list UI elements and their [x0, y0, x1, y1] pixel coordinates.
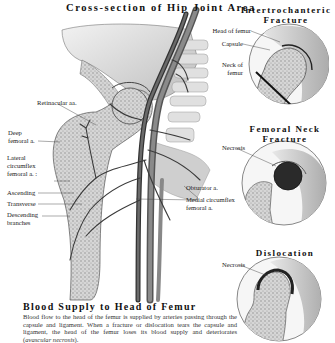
label-deep-femoral-artery: Deep femoral a. [8, 129, 35, 145]
panel-femoral-neck-fracture [236, 141, 329, 240]
label-head-of-femur: Head of femur [206, 27, 251, 35]
label-medial-circumflex-femoral-artery: Medial circumflex femoral a. [186, 196, 235, 212]
panel-title-femoral-neck-fracture: Femoral Neck Fracture [240, 124, 330, 144]
label-ascending: Ascending [7, 189, 35, 197]
panel-title-dislocation: Dislocation [240, 248, 330, 258]
blood-supply-description: Blood flow to the head of the femur is s… [23, 313, 237, 343]
panel-title-intertrochanteric: Intertrochanteric Fracture [236, 5, 335, 25]
main-title: Cross-section of Hip Joint Area [66, 2, 256, 13]
label-obturator-artery: Obturator a. [186, 184, 218, 192]
label-lateral-circumflex-femoral-artery: Lateral circumflex femoral a. : [7, 154, 37, 177]
label-retinacular-arteries: Retinacular aa. [37, 99, 77, 107]
panel-dislocation [237, 257, 328, 343]
label-descending-branches: Descending branches [7, 211, 38, 227]
label-transverse: Transverse [7, 200, 36, 208]
label-capsule: Capsule [206, 40, 243, 48]
label-necrosis-neck: Necrosis [222, 144, 245, 152]
panel-intertrochanteric [243, 24, 329, 120]
label-necrosis-dislocation: Necrosis [222, 261, 245, 269]
blood-supply-title: Blood Supply to Head of Femur [23, 301, 197, 312]
label-neck-of-femur: Neck of femur [206, 61, 243, 77]
